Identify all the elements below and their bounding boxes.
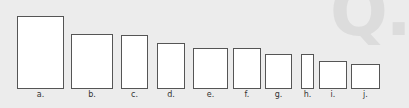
rectangle-e [193,48,228,89]
rectangle-j [351,64,380,89]
rectangle-f [233,48,261,89]
watermark-text: Q. [330,0,409,46]
rectangle-label-j: j. [356,90,376,99]
rectangle-label-f: f. [237,90,257,99]
rectangle-a [17,16,64,89]
rectangle-label-g: g. [269,90,289,99]
rectangle-label-a: a. [31,90,51,99]
rectangle-g [265,54,292,89]
rectangle-label-e: e. [201,90,221,99]
rectangle-c [121,35,148,89]
rectangle-label-i: i. [323,90,343,99]
rectangle-h [301,54,314,89]
rectangle-b [71,34,113,89]
rectangle-label-b: b. [82,90,102,99]
rectangle-i [319,61,347,89]
rectangle-label-h: h. [298,90,318,99]
rectangle-label-c: c. [125,90,145,99]
rectangle-d [157,43,185,89]
rectangle-label-d: d. [161,90,181,99]
